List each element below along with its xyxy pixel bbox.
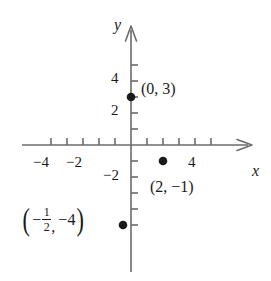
fraction-label-close-paren: ) xyxy=(77,207,84,232)
y-tick-label-neg2: −2 xyxy=(103,168,119,183)
y-tick-label-2: 2 xyxy=(111,103,119,118)
coordinate-plane-svg xyxy=(0,0,271,281)
x-axis-label: x xyxy=(252,163,259,179)
coordinate-plane-figure: y x 4 2 −2 −4 −2 4 (0, 3) (2, −1) ( − 1 … xyxy=(0,0,271,281)
point-label-neghalf-neg4: ( − 1 2 , −4 ) xyxy=(21,206,86,233)
fraction-one-half: 1 2 xyxy=(42,206,51,233)
y-axis-label: y xyxy=(114,17,121,33)
data-point-neghalf-neg4 xyxy=(119,221,128,230)
fraction-denominator: 2 xyxy=(43,221,51,233)
fraction-label-second-coordinate: −4 xyxy=(58,212,75,228)
x-tick-label-neg2: −2 xyxy=(66,155,82,170)
y-tick-label-4: 4 xyxy=(111,71,119,86)
fraction-numerator: 1 xyxy=(43,206,51,218)
point-label-2-neg1: (2, −1) xyxy=(150,179,194,195)
data-point-0-3 xyxy=(127,93,136,102)
data-point-2-neg1 xyxy=(159,157,168,166)
x-tick-label-neg4: −4 xyxy=(33,155,49,170)
fraction-label-open-paren: ( xyxy=(22,207,29,232)
point-label-0-3: (0, 3) xyxy=(141,81,176,97)
x-tick-label-4: 4 xyxy=(188,155,196,170)
fraction-label-comma: , xyxy=(51,219,55,235)
fraction-label-minus-sign: − xyxy=(32,212,41,228)
